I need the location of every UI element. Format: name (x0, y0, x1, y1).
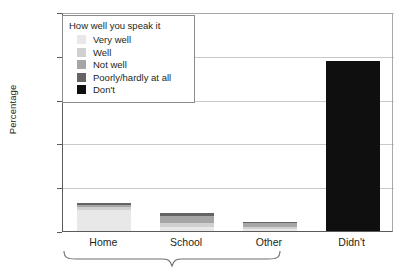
legend-item: Very well (69, 34, 188, 45)
legend-label: Well (93, 47, 111, 58)
bar-segment (160, 216, 214, 223)
y-axis-title: Percentage (7, 65, 18, 155)
legend-item: Poorly/hardly at all (69, 72, 188, 83)
legend-swatch (77, 48, 86, 57)
legend-swatch (77, 60, 86, 69)
bar-other[interactable] (243, 222, 297, 231)
bar-school[interactable] (160, 213, 214, 231)
stacked-bar-chart: Percentage 0%20%40%60%80%100% HomeSchool… (0, 0, 407, 276)
y-tick-mark (57, 232, 62, 233)
y-tick-mark (57, 13, 62, 14)
legend-item: Not well (69, 59, 188, 70)
bar-home[interactable] (77, 203, 131, 231)
legend-label: Don't (93, 84, 115, 95)
y-tick-mark (57, 144, 62, 145)
legend: How well you speak it Very wellWellNot w… (62, 15, 195, 103)
category-group-brace (62, 249, 282, 269)
bar-segment (160, 227, 214, 231)
bar-segment (326, 61, 380, 231)
bar-didnt[interactable] (326, 61, 380, 231)
legend-item: Well (69, 47, 188, 58)
legend-item: Don't (69, 84, 188, 95)
curly-brace-icon (62, 249, 282, 269)
bar-segment (243, 229, 297, 231)
legend-label: Not well (93, 59, 127, 70)
x-tick-label: Didn't (292, 236, 407, 248)
legend-swatch (77, 35, 86, 44)
legend-label: Poorly/hardly at all (93, 72, 171, 83)
legend-items: Very wellWellNot wellPoorly/hardly at al… (69, 34, 188, 95)
legend-swatch (77, 85, 86, 94)
gridline (63, 13, 394, 14)
y-tick-mark (57, 188, 62, 189)
legend-title: How well you speak it (69, 20, 188, 31)
legend-label: Very well (93, 34, 131, 45)
legend-swatch (77, 73, 86, 82)
bar-segment (77, 210, 131, 231)
